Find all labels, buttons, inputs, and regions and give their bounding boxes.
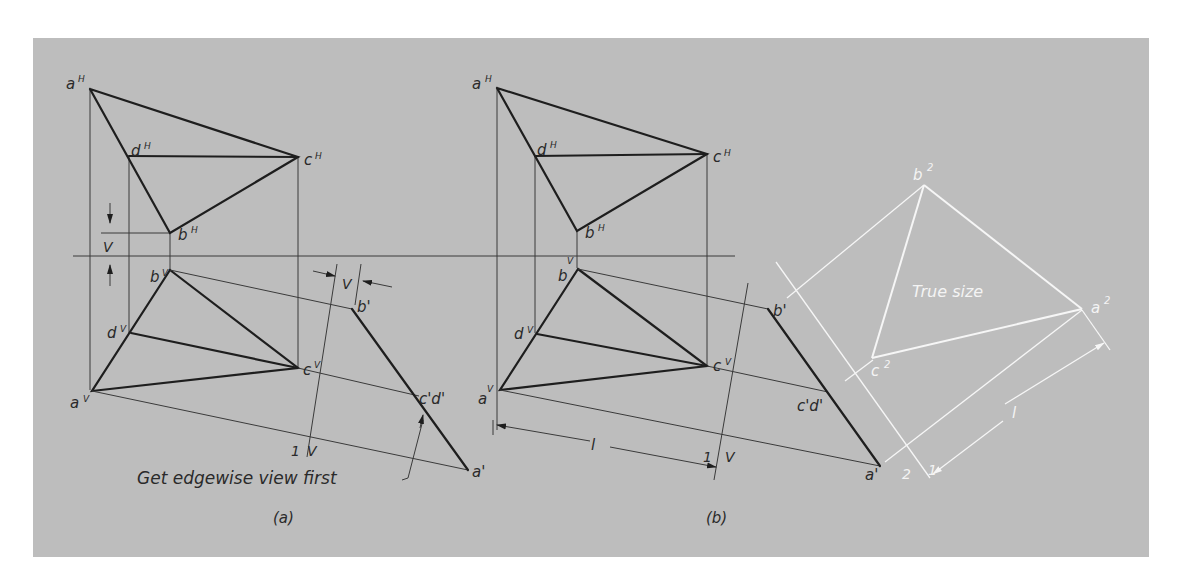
label-aH-b: a [472, 75, 481, 93]
dim-v-aux: V [342, 276, 353, 292]
svg-text:2: 2 [1104, 295, 1110, 306]
part-a: a H d H c H b H b V d V c V a V b' c'd' … [66, 74, 735, 527]
label-b2: b [913, 166, 923, 184]
label-dH: d [131, 142, 141, 160]
svg-text:V: V [314, 360, 321, 370]
label-c2: c [871, 362, 880, 380]
descriptive-geometry-figure: a H d H c H b H b V d V c V a V b' c'd' … [0, 0, 1191, 572]
dim-l: l [591, 436, 596, 454]
label-a2: a [1091, 299, 1100, 317]
svg-text:H: H [315, 151, 322, 161]
dim-l2: l [1012, 404, 1017, 422]
svg-text:V: V [162, 268, 169, 278]
svg-text:H: H [550, 140, 557, 150]
label-b1: b' [357, 298, 371, 316]
label-cH: c [304, 151, 313, 169]
label-bV: b [150, 268, 160, 286]
label-b1-b: b' [773, 302, 787, 320]
top-view-a [90, 89, 298, 233]
label-bH: b [178, 226, 188, 244]
fold-line-1v-a [307, 264, 337, 457]
label-aV: a [70, 394, 79, 412]
label-cd1: c'd' [419, 390, 445, 408]
part-b: a H d H c H b H b V d V c V a V b' c'd' … [472, 74, 1110, 527]
label-aV-b: a [478, 390, 487, 408]
svg-text:V: V [567, 256, 574, 266]
label-dH-b: d [537, 141, 547, 159]
svg-text:2: 2 [902, 466, 911, 482]
label-cV-b: c [713, 357, 722, 375]
svg-text:H: H [144, 141, 151, 151]
svg-text:V: V [725, 357, 732, 367]
top-view-b [497, 88, 707, 231]
svg-text:H: H [78, 74, 85, 84]
svg-text:V: V [527, 325, 534, 335]
svg-text:H: H [724, 148, 731, 158]
label-cV: c [303, 361, 312, 379]
label-cd1-b: c'd' [797, 397, 823, 415]
true-size-view [776, 185, 1110, 478]
edge-view-b [768, 309, 880, 466]
label-dV: d [107, 324, 117, 342]
svg-text:H: H [191, 225, 198, 235]
label-a1: a' [472, 463, 485, 481]
label-bH-b: b [585, 224, 595, 242]
svg-text:1: 1 [291, 443, 300, 459]
label-dV-b: d [514, 325, 524, 343]
svg-text:H: H [598, 223, 605, 233]
edge-view-a [352, 309, 468, 470]
svg-text:1: 1 [703, 449, 712, 465]
svg-text:V: V [725, 449, 736, 465]
label-a1-b: a' [865, 466, 878, 484]
label-bV-b: b [558, 267, 568, 285]
svg-text:2: 2 [927, 162, 933, 173]
dim-v-left: V [103, 239, 114, 255]
label-cH-b: c [713, 148, 722, 166]
svg-text:V: V [487, 384, 494, 394]
note-get-edgewise: Get edgewise view first [137, 468, 338, 488]
svg-text:H: H [485, 74, 492, 84]
caption-b: (b) [706, 509, 727, 527]
svg-text:V: V [307, 443, 318, 459]
true-size-label: True size [912, 282, 983, 301]
svg-text:V: V [120, 324, 127, 334]
caption-a: (a) [273, 509, 294, 527]
svg-text:1: 1 [928, 462, 937, 478]
label-aH: a [66, 75, 75, 93]
svg-text:2: 2 [884, 359, 890, 370]
svg-text:V: V [83, 394, 90, 404]
